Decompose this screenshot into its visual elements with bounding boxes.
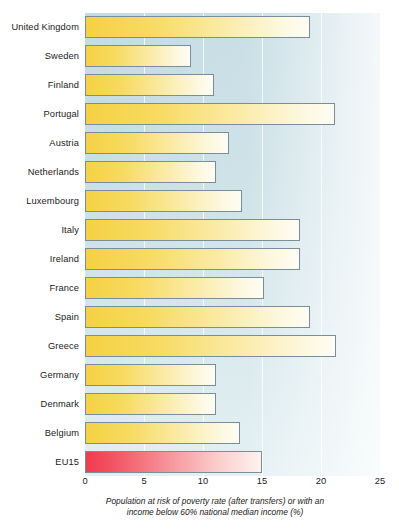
category-label: Portugal: [0, 103, 79, 125]
bar-row: [85, 74, 380, 96]
bar-rows: [85, 13, 380, 476]
bar[interactable]: [85, 45, 191, 67]
x-tick-label: 5: [141, 476, 146, 486]
category-label: Denmark: [0, 393, 79, 415]
category-label: EU15: [0, 451, 79, 473]
bar-row: [85, 132, 380, 154]
x-tick-label: 25: [375, 476, 385, 486]
bar-row: [85, 45, 380, 67]
bar[interactable]: [85, 219, 300, 241]
bar[interactable]: [85, 74, 214, 96]
x-tick-label: 0: [82, 476, 87, 486]
x-tick-label: 15: [257, 476, 267, 486]
bar[interactable]: [85, 190, 242, 212]
bar[interactable]: [85, 161, 216, 183]
bar-row: [85, 277, 380, 299]
bar[interactable]: [85, 277, 264, 299]
category-label: Netherlands: [0, 161, 79, 183]
category-label: Belgium: [0, 422, 79, 444]
x-axis-caption: Population at risk of poverty rate (afte…: [60, 496, 370, 518]
x-tick-label: 10: [198, 476, 208, 486]
bar[interactable]: [85, 364, 216, 386]
bar-row: [85, 16, 380, 38]
category-label: Sweden: [0, 45, 79, 67]
bar[interactable]: [85, 16, 310, 38]
gridline: [380, 13, 381, 476]
bar-row: [85, 161, 380, 183]
category-label: France: [0, 277, 79, 299]
category-label: Italy: [0, 219, 79, 241]
poverty-rate-bar-chart: United KingdomSwedenFinlandPortugalAustr…: [0, 0, 399, 531]
bar[interactable]: [85, 451, 262, 473]
bar[interactable]: [85, 132, 229, 154]
bar[interactable]: [85, 335, 336, 357]
category-label: Greece: [0, 335, 79, 357]
bar-row: [85, 219, 380, 241]
bar[interactable]: [85, 422, 240, 444]
bar-row: [85, 451, 380, 473]
x-axis-caption-line-2: income below 60% national median income …: [60, 507, 370, 518]
category-label: Ireland: [0, 248, 79, 270]
bar-row: [85, 335, 380, 357]
bar-row: [85, 364, 380, 386]
category-label: Germany: [0, 364, 79, 386]
category-label: United Kingdom: [0, 16, 79, 38]
bar-row: [85, 190, 380, 212]
bar-row: [85, 248, 380, 270]
category-label: Austria: [0, 132, 79, 154]
plot-area: [85, 13, 380, 476]
bar-row: [85, 422, 380, 444]
bar-row: [85, 103, 380, 125]
category-label: Finland: [0, 74, 79, 96]
bar-row: [85, 306, 380, 328]
bar-row: [85, 393, 380, 415]
bar[interactable]: [85, 393, 216, 415]
bar[interactable]: [85, 103, 335, 125]
bar[interactable]: [85, 248, 300, 270]
category-label: Luxembourg: [0, 190, 79, 212]
x-tick-label: 20: [316, 476, 326, 486]
x-axis-ticks: 0510152025: [85, 476, 380, 492]
category-label: Spain: [0, 306, 79, 328]
bar[interactable]: [85, 306, 310, 328]
x-axis-caption-line-1: Population at risk of poverty rate (afte…: [60, 496, 370, 507]
